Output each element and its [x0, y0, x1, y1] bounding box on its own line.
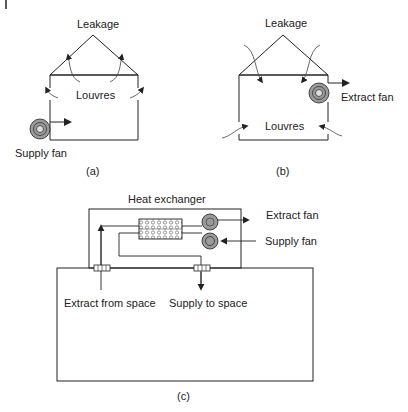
- heat-exchanger-unit: [89, 209, 241, 268]
- panel-b-leakage-label: Leakage: [265, 17, 307, 29]
- ventilation-diagram: [0, 0, 408, 412]
- heat-exchanger-supply-fan-icon: [202, 233, 218, 249]
- panel-b-caption: (b): [276, 165, 289, 177]
- panel-c-caption: (c): [177, 390, 190, 402]
- panel-c-space: [57, 268, 313, 381]
- panel-b-extract-fan-label: Extract fan: [341, 91, 394, 103]
- panel-c-supply-fan-label: Supply fan: [265, 235, 317, 247]
- panel-a-louvres-label: Louvres: [76, 89, 115, 101]
- heat-exchanger-extract-fan-icon: [202, 214, 218, 230]
- panel-a-leakage-label: Leakage: [77, 18, 119, 30]
- supply-to-space-label: Supply to space: [169, 297, 247, 309]
- panel-a-caption: (a): [86, 165, 99, 177]
- panel-c-extract-fan-label: Extract fan: [266, 209, 319, 221]
- panel-a-building: [50, 35, 138, 140]
- panel-b-louvres-label: Louvres: [265, 120, 304, 132]
- panel-a-supply-fan-label: Supply fan: [15, 147, 67, 159]
- heat-exchanger-label: Heat exchanger: [128, 193, 206, 205]
- extract-from-space-label: Extract from space: [64, 297, 156, 309]
